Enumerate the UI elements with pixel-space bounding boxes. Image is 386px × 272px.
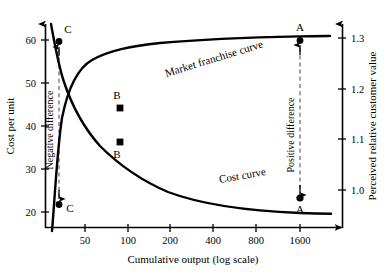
x-tick-label-200: 200	[162, 235, 178, 246]
left-tick-label-20: 20	[26, 207, 37, 218]
right-tick-label-1-2: 1.2	[351, 84, 364, 95]
x-tick-label-100: 100	[120, 235, 136, 246]
left-tick-label-40: 40	[26, 121, 37, 132]
point-label-c-upper: C	[64, 23, 71, 35]
data-point-c-upper	[56, 38, 63, 45]
right-y-axis-title: Perceived relative customer value	[366, 52, 378, 201]
left-tick-label-60: 60	[26, 35, 37, 46]
x-tick-label-800: 800	[248, 235, 264, 246]
data-point-b-lower	[117, 139, 124, 146]
negative-difference-label: Negative difference	[44, 90, 55, 169]
data-point-c-lower	[56, 201, 63, 208]
point-label-b-upper: B	[113, 89, 120, 101]
positive-difference-label: Positive difference	[285, 97, 296, 173]
dual-axis-cost-value-chart: 20 30 40 50 60 1.0 1.1 1.2 1.3	[0, 0, 386, 272]
right-tick-label-1-0: 1.0	[351, 185, 364, 196]
point-label-c-lower: C	[66, 202, 73, 214]
point-label-group: C C B B A A	[64, 21, 304, 215]
point-label-b-lower: B	[113, 148, 120, 160]
market-franchise-curve-label: Market franchise curve	[163, 37, 264, 78]
chart-figure: 20 30 40 50 60 1.0 1.1 1.2 1.3	[0, 0, 386, 272]
point-label-a-lower: A	[296, 203, 304, 215]
right-tick-label-1-1: 1.1	[351, 134, 364, 145]
x-axis-title: Cumulative output (log scale)	[127, 253, 258, 266]
data-point-b-upper	[117, 105, 124, 112]
right-tick-label-1-3: 1.3	[351, 33, 364, 44]
left-y-axis-title: Cost per unit	[4, 98, 16, 155]
point-label-a-upper: A	[296, 21, 304, 33]
x-tick-label-1600: 1600	[290, 235, 311, 246]
x-tick-label-50: 50	[80, 235, 91, 246]
data-point-a-upper	[297, 37, 304, 44]
x-tick-label-400: 400	[205, 235, 221, 246]
data-point-a-lower	[296, 194, 303, 201]
curve-label-group: Market franchise curve Cost curve	[163, 37, 266, 185]
left-tick-label-30: 30	[26, 164, 37, 175]
left-tick-label-50: 50	[26, 78, 37, 89]
cost-curve-label: Cost curve	[218, 165, 267, 185]
